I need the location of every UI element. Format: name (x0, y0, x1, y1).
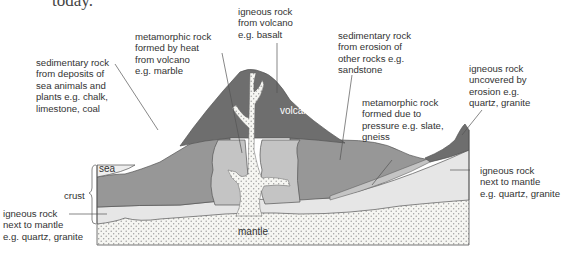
label-igneous-mantle-right: igneous rock next to mantle e.g. quartz,… (480, 165, 560, 199)
label-igneous-volcano: igneous rock from volcano e.g. basalt (238, 6, 293, 40)
label-sedimentary-erosion: sedimentary rock from erosion of other r… (338, 30, 411, 76)
label-metamorphic-pressure: metamorphic rock formed due to pressure … (362, 97, 444, 143)
label-sedimentary-sea: sedimentary rock from deposits of sea an… (36, 57, 109, 114)
label-igneous-uncovered: igneous rock uncovered by erosion e.g. q… (469, 63, 530, 109)
label-metamorphic-heat: metamorphic rock formed by heat from vol… (135, 31, 211, 77)
label-sea: sea (99, 163, 115, 174)
label-mantle: mantle (238, 226, 268, 237)
metamorphic-heat-zone-right (260, 140, 300, 204)
label-crust: crust (64, 190, 85, 201)
label-volcano: volcano (280, 105, 314, 116)
crust-bracket (89, 165, 96, 224)
label-igneous-mantle-left: igneous rock next to mantle e.g. quartz,… (3, 208, 83, 242)
